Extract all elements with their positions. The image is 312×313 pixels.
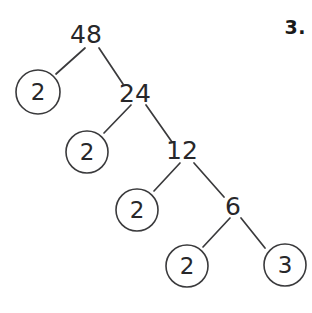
branch-line-n6-n2d: [203, 218, 230, 247]
problem-number-label: 3.: [285, 16, 306, 38]
node-value-label: 2: [130, 197, 145, 223]
node-value-label: 2: [80, 139, 95, 165]
factor-nodes-group: 482242122623: [16, 20, 306, 287]
node-value-label: 6: [225, 192, 241, 221]
branch-line-n12-n6: [194, 163, 224, 197]
branch-line-n6-n3: [241, 218, 265, 248]
factor-tree-worksheet: 482242122623 3.: [0, 0, 312, 313]
composite-factor-node[interactable]: 48: [70, 20, 102, 49]
prime-factor-node[interactable]: 2: [166, 245, 208, 287]
composite-factor-node[interactable]: 12: [166, 136, 198, 165]
node-value-label: 2: [31, 79, 46, 105]
node-value-label: 48: [70, 20, 102, 49]
prime-factor-node[interactable]: 2: [16, 70, 60, 114]
factor-tree-diagram: 482242122623: [0, 0, 312, 313]
prime-factor-node[interactable]: 2: [66, 131, 108, 173]
node-value-label: 12: [166, 136, 198, 165]
node-value-label: 24: [119, 79, 151, 108]
branch-line-n24-n2b: [104, 105, 131, 133]
branch-line-n48-n2a: [56, 48, 85, 74]
node-value-label: 3: [278, 252, 293, 278]
branch-line-n12-n2c: [154, 163, 180, 191]
node-value-label: 2: [180, 253, 195, 279]
prime-factor-node[interactable]: 2: [116, 189, 158, 231]
composite-factor-node[interactable]: 24: [119, 79, 151, 108]
composite-factor-node[interactable]: 6: [225, 192, 241, 221]
prime-factor-node[interactable]: 3: [264, 244, 306, 286]
